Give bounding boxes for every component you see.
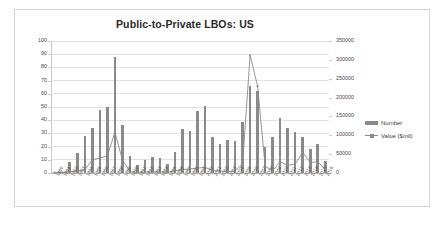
right-axis-tick bbox=[329, 135, 332, 136]
right-axis-tick-label: 50000 bbox=[336, 151, 370, 156]
line-marker-swatch-icon bbox=[365, 133, 378, 138]
left-axis-tick-label: 10 bbox=[23, 157, 47, 162]
plot-area bbox=[51, 41, 329, 173]
right-axis-tick-label: 350000 bbox=[336, 38, 370, 43]
chart-legend: Number Value ($mil) bbox=[365, 116, 441, 142]
line-series bbox=[51, 41, 329, 173]
value-line-marker bbox=[302, 151, 304, 153]
left-axis-tick bbox=[48, 173, 51, 174]
x-axis-tick-label: 2016 bbox=[326, 166, 335, 177]
left-axis-tick-label: 50 bbox=[23, 104, 47, 109]
right-axis-tick bbox=[329, 98, 332, 99]
value-line-marker bbox=[91, 159, 93, 161]
value-line-marker bbox=[294, 163, 296, 165]
right-axis-tick-label: 250000 bbox=[336, 76, 370, 81]
left-axis-tick bbox=[48, 54, 51, 55]
right-axis-tick bbox=[329, 79, 332, 80]
value-line-marker bbox=[279, 161, 281, 163]
left-axis-tick bbox=[48, 81, 51, 82]
left-axis-tick bbox=[48, 120, 51, 121]
right-axis-tick-label: 0 bbox=[336, 170, 370, 175]
legend-label-value: Value ($mil) bbox=[381, 133, 413, 139]
value-line-marker bbox=[249, 54, 251, 56]
legend-item-number: Number bbox=[365, 116, 441, 129]
value-line-marker bbox=[317, 161, 319, 163]
value-line-marker bbox=[309, 162, 311, 164]
left-axis-tick-label: 20 bbox=[23, 144, 47, 149]
value-line-marker bbox=[257, 85, 259, 87]
left-axis-tick-label: 60 bbox=[23, 91, 47, 96]
right-axis-tick bbox=[329, 41, 332, 42]
value-line-marker bbox=[242, 163, 244, 165]
left-axis-tick-label: 30 bbox=[23, 130, 47, 135]
left-axis-tick-label: 80 bbox=[23, 64, 47, 69]
right-axis-tick-label: 300000 bbox=[336, 57, 370, 62]
value-line-marker bbox=[121, 159, 123, 161]
right-axis-tick bbox=[329, 154, 332, 155]
left-axis-tick-label: 100 bbox=[23, 38, 47, 43]
legend-item-value: Value ($mil) bbox=[365, 129, 441, 142]
left-axis-tick bbox=[48, 133, 51, 134]
left-axis-tick-label: 40 bbox=[23, 117, 47, 122]
left-axis-tick-label: 0 bbox=[23, 170, 47, 175]
value-line-marker bbox=[99, 157, 101, 159]
value-line-marker bbox=[106, 155, 108, 157]
bar-swatch-icon bbox=[365, 121, 378, 125]
left-axis-tick bbox=[48, 94, 51, 95]
left-axis-tick bbox=[48, 107, 51, 108]
x-axis-labels: 1980198119821983198419851986198719881989… bbox=[51, 175, 329, 213]
chart-frame: Public-to-Private LBOs: US 0102030405060… bbox=[14, 9, 430, 207]
value-line-path bbox=[55, 55, 325, 172]
right-axis-tick bbox=[329, 116, 332, 117]
chart-title: Public-to-Private LBOs: US bbox=[15, 18, 355, 30]
left-axis-tick bbox=[48, 41, 51, 42]
right-axis-tick bbox=[329, 60, 332, 61]
left-axis-tick-label: 90 bbox=[23, 51, 47, 56]
left-axis-tick bbox=[48, 160, 51, 161]
left-axis-tick bbox=[48, 147, 51, 148]
left-axis-tick-label: 70 bbox=[23, 78, 47, 83]
value-line-marker bbox=[114, 131, 116, 133]
left-axis-tick bbox=[48, 67, 51, 68]
right-axis-tick-label: 200000 bbox=[336, 95, 370, 100]
legend-label-number: Number bbox=[381, 120, 402, 126]
